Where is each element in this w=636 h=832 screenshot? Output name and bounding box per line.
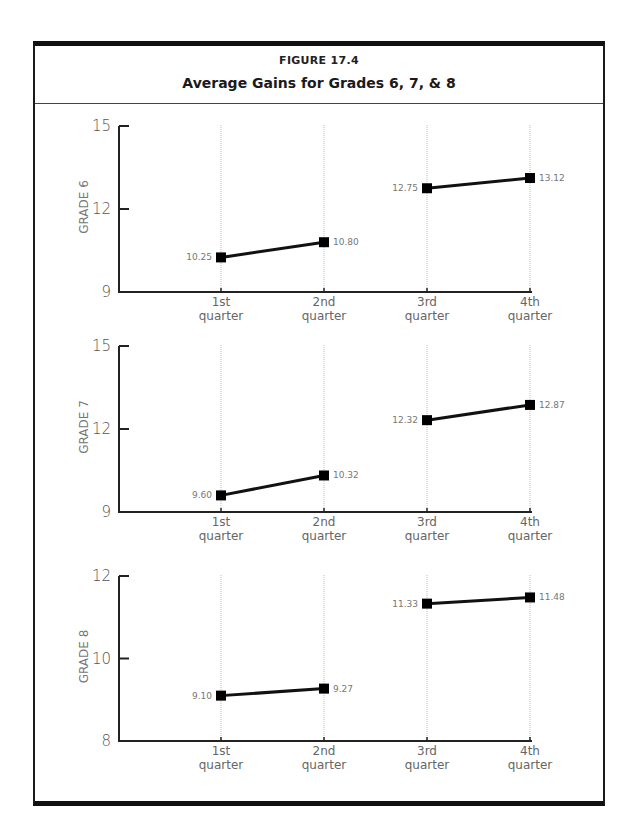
data-value-label: 9.60 <box>192 490 212 500</box>
data-point-marker <box>319 237 329 247</box>
chart-grade-8: 810121stquarter2ndquarter3rdquarter4thqu… <box>77 567 565 772</box>
data-line <box>427 405 530 420</box>
y-axis-label: GRADE 6 <box>77 180 91 234</box>
data-value-label: 12.75 <box>392 183 418 193</box>
x-tick-label: quarter <box>302 309 347 323</box>
x-tick-label: 2nd <box>313 744 336 758</box>
x-tick-label: 2nd <box>313 515 336 529</box>
x-tick-label: quarter <box>302 529 347 543</box>
y-tick-label: 15 <box>92 117 111 135</box>
x-tick-label: quarter <box>302 758 347 772</box>
x-tick-label: 4th <box>520 515 540 529</box>
x-tick-label: quarter <box>405 529 450 543</box>
data-value-label: 9.27 <box>333 684 353 694</box>
x-tick-label: 1st <box>212 515 231 529</box>
y-tick-label: 15 <box>92 337 111 355</box>
data-value-label: 12.32 <box>392 415 418 425</box>
data-point-marker <box>319 470 329 480</box>
data-point-marker <box>422 599 432 609</box>
data-value-label: 10.32 <box>333 470 359 480</box>
data-line <box>221 475 324 495</box>
data-point-marker <box>216 252 226 262</box>
y-tick-label: 12 <box>92 420 111 438</box>
x-tick-label: 3rd <box>417 744 437 758</box>
data-line <box>427 597 530 603</box>
x-tick-label: quarter <box>508 758 553 772</box>
y-tick-label: 9 <box>101 283 111 301</box>
x-tick-label: quarter <box>199 309 244 323</box>
y-tick-label: 8 <box>101 732 111 750</box>
data-line <box>427 178 530 188</box>
data-point-marker <box>422 183 432 193</box>
y-tick-label: 12 <box>92 200 111 218</box>
x-tick-label: 4th <box>520 744 540 758</box>
chart-grade-7: 912151stquarter2ndquarter3rdquarter4thqu… <box>77 337 565 543</box>
data-point-marker <box>525 592 535 602</box>
data-point-marker <box>525 173 535 183</box>
x-tick-label: 3rd <box>417 515 437 529</box>
data-point-marker <box>525 400 535 410</box>
x-tick-label: 2nd <box>313 295 336 309</box>
x-tick-label: quarter <box>508 309 553 323</box>
data-point-marker <box>319 684 329 694</box>
x-tick-label: 3rd <box>417 295 437 309</box>
chart-grade-6: 912151stquarter2ndquarter3rdquarter4thqu… <box>77 117 565 323</box>
y-tick-label: 10 <box>92 650 111 668</box>
x-tick-label: quarter <box>508 529 553 543</box>
x-tick-label: quarter <box>199 529 244 543</box>
data-point-marker <box>216 490 226 500</box>
data-value-label: 13.12 <box>539 173 565 183</box>
x-tick-label: quarter <box>199 758 244 772</box>
data-value-label: 10.25 <box>186 252 212 262</box>
x-tick-label: quarter <box>405 758 450 772</box>
charts-container: 912151stquarter2ndquarter3rdquarter4thqu… <box>0 0 636 832</box>
y-tick-label: 9 <box>101 503 111 521</box>
data-value-label: 11.48 <box>539 592 565 602</box>
data-value-label: 11.33 <box>392 599 418 609</box>
data-line <box>221 689 324 696</box>
data-point-marker <box>422 415 432 425</box>
x-tick-label: 4th <box>520 295 540 309</box>
y-tick-label: 12 <box>92 567 111 585</box>
x-tick-label: 1st <box>212 744 231 758</box>
data-line <box>221 242 324 257</box>
y-axis-label: GRADE 7 <box>77 400 91 454</box>
data-point-marker <box>216 691 226 701</box>
data-value-label: 10.80 <box>333 237 359 247</box>
x-tick-label: 1st <box>212 295 231 309</box>
y-axis-label: GRADE 8 <box>77 630 91 684</box>
data-value-label: 9.10 <box>192 691 212 701</box>
x-tick-label: quarter <box>405 309 450 323</box>
data-value-label: 12.87 <box>539 400 565 410</box>
